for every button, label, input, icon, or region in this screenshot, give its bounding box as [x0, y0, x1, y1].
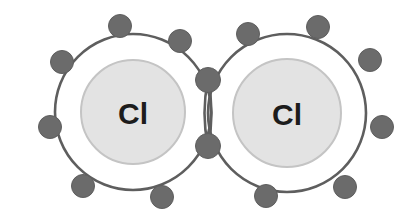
- electron-dot-left-1: [109, 15, 132, 38]
- electron-dot-right-9: [359, 49, 382, 72]
- electron-dot-left-6: [151, 186, 174, 209]
- electron-dot-left-4: [39, 116, 62, 139]
- electron-dot-left-3: [51, 51, 74, 74]
- electron-dot-right-10: [371, 116, 394, 139]
- electron-dot-right-8: [307, 16, 330, 39]
- chemistry-diagram-canvas: Chlorine molecule covalent bond diagram …: [0, 0, 415, 220]
- electron-dot-left-5: [72, 175, 95, 198]
- atom-label-right-chlorine: Cl: [272, 98, 302, 131]
- cl2-covalent-bond-diagram: Chlorine molecule covalent bond diagram …: [0, 0, 415, 220]
- electron-dot-right-11: [334, 176, 357, 199]
- shared-electron-bottom: [196, 134, 221, 159]
- atom-label-left-chlorine: Cl: [118, 97, 148, 130]
- shared-electron-top: [196, 68, 221, 93]
- electron-dot-right-7: [237, 23, 260, 46]
- electron-dot-left-2: [169, 30, 192, 53]
- electron-dot-right-12: [255, 185, 278, 208]
